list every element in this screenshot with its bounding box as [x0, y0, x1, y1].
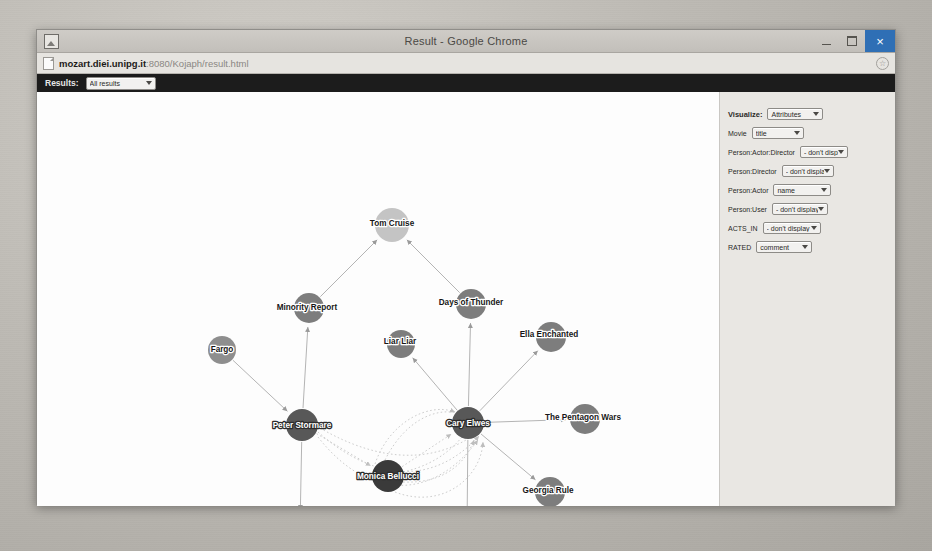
document-icon	[43, 57, 54, 70]
panel-label-person-user: Person:User	[728, 206, 767, 213]
node-label: Ella Enchanted	[520, 330, 579, 339]
panel-row-rated: RATEDcomment	[728, 241, 895, 253]
chevron-down-icon	[824, 169, 830, 173]
star-icon[interactable]: ☆	[876, 57, 889, 70]
attributes-panel: Visualize:AttributesMovietitlePerson:Act…	[720, 92, 895, 506]
address-bar[interactable]: mozart.diei.unipg.it:8080/Kojaph/result.…	[37, 53, 895, 74]
node-label: Peter Stormare	[273, 421, 332, 430]
graph-node-fargo[interactable]: Fargo	[208, 336, 236, 364]
panel-label-person-actor-director: Person:Actor:Director	[728, 149, 795, 156]
url-text[interactable]: mozart.diei.unipg.it:8080/Kojaph/result.…	[59, 58, 249, 69]
graph-node-monica-bellucci[interactable]: Monica Bellucci	[357, 460, 419, 492]
graph-node-georgia-rule[interactable]: Georgia Rule	[523, 477, 574, 506]
graph-svg[interactable]: Tom CruiseMinority ReportDays of Thunder…	[37, 92, 719, 506]
app-toolbar: Results: All results	[37, 74, 895, 92]
chevron-down-icon	[813, 112, 819, 116]
panel-select-value-person-actor: name	[777, 187, 801, 194]
panel-row-acts-in: ACTS_IN- don't display -	[728, 222, 895, 234]
graph-node-ella-enchanted[interactable]: Ella Enchanted	[520, 322, 579, 352]
chevron-down-icon	[146, 81, 152, 85]
node-label: Tom Cruise	[370, 219, 415, 228]
chevron-down-icon	[838, 150, 844, 154]
page-content: Tom CruiseMinority ReportDays of Thunder…	[37, 92, 895, 506]
node-label: Minority Report	[277, 303, 338, 312]
chevron-down-icon	[821, 188, 827, 192]
graph-node-tom-cruise[interactable]: Tom Cruise	[370, 208, 415, 242]
panel-select-acts-in[interactable]: - don't display -	[763, 222, 821, 234]
results-select[interactable]: All results	[86, 77, 156, 90]
chevron-down-icon	[794, 131, 800, 135]
panel-select-value-visualize: Attributes	[771, 111, 807, 118]
browser-window: Result - Google Chrome × mozart.diei.uni…	[36, 29, 896, 505]
panel-row-person-director: Person:Director- don't display -	[728, 165, 895, 177]
graph-edge	[320, 240, 377, 297]
panel-label-visualize: Visualize:	[728, 110, 762, 119]
chevron-down-icon	[818, 207, 824, 211]
node-label: Georgia Rule	[523, 486, 574, 495]
graph-node-liar-liar[interactable]: Liar Liar	[384, 330, 417, 358]
panel-select-person-actor-director[interactable]: - don't display -	[800, 146, 848, 158]
panel-select-person-director[interactable]: - don't display -	[782, 165, 834, 177]
graph-node-pentagon-wars[interactable]: The Pentagon Wars	[545, 404, 622, 434]
panel-select-visualize[interactable]: Attributes	[767, 108, 823, 120]
graph-nodes[interactable]: Tom CruiseMinority ReportDays of Thunder…	[208, 208, 622, 506]
panel-select-value-person-actor-director: - don't display -	[804, 149, 838, 156]
panel-row-visualize: Visualize:Attributes	[728, 108, 895, 120]
window-title: Result - Google Chrome	[37, 35, 895, 47]
panel-select-person-actor[interactable]: name	[773, 184, 831, 196]
node-label: Days of Thunder	[439, 298, 504, 307]
graph-edge	[481, 434, 535, 480]
graph-edge	[468, 323, 470, 406]
panel-select-movie[interactable]: title	[752, 127, 804, 139]
panel-select-value-acts-in: - don't display -	[767, 225, 811, 232]
panel-select-value-person-director: - don't display -	[786, 168, 824, 175]
results-select-value: All results	[90, 80, 126, 87]
graph-edge	[303, 327, 308, 408]
graph-edge	[480, 351, 538, 411]
panel-row-person-actor-director: Person:Actor:Director- don't display -	[728, 146, 895, 158]
panel-select-person-user[interactable]: - don't display -	[772, 203, 828, 215]
graph-canvas[interactable]: Tom CruiseMinority ReportDays of Thunder…	[37, 92, 719, 506]
window-titlebar: Result - Google Chrome ×	[37, 30, 895, 53]
panel-row-person-actor: Person:Actorname	[728, 184, 895, 196]
panel-label-person-director: Person:Director	[728, 168, 777, 175]
graph-edge	[467, 440, 468, 506]
panel-select-value-person-user: - don't display -	[776, 206, 818, 213]
graph-edge	[402, 434, 451, 467]
graph-node-days-of-thunder[interactable]: Days of Thunder	[439, 289, 504, 319]
rated-curve-6	[395, 442, 483, 497]
node-label: Cary Elwes	[446, 419, 490, 428]
node-label: Monica Bellucci	[357, 472, 419, 481]
graph-edge	[300, 442, 301, 506]
node-label: Liar Liar	[384, 337, 417, 346]
panel-select-value-movie: title	[756, 130, 773, 137]
panel-row-movie: Movietitle	[728, 127, 895, 139]
panel-label-rated: RATED	[728, 244, 751, 251]
graph-edge	[413, 358, 457, 410]
url-path: :8080/Kojaph/result.html	[146, 58, 248, 69]
url-host: mozart.diei.unipg.it	[59, 58, 146, 69]
chevron-down-icon	[811, 226, 817, 230]
panel-select-rated[interactable]: comment	[756, 241, 812, 253]
node-label: The Pentagon Wars	[545, 413, 622, 422]
graph-edge	[233, 360, 287, 411]
panel-select-value-rated: comment	[760, 244, 795, 251]
graph-edge	[407, 240, 460, 293]
panel-label-person-actor: Person:Actor	[728, 187, 768, 194]
node-label: Fargo	[211, 345, 234, 354]
chevron-down-icon	[802, 245, 808, 249]
graph-edge	[317, 434, 371, 466]
graph-node-peter-stormare[interactable]: Peter Stormare	[273, 409, 332, 441]
panel-label-movie: Movie	[728, 130, 747, 137]
graph-node-minority-report[interactable]: Minority Report	[277, 293, 338, 323]
results-label: Results:	[45, 78, 79, 88]
panel-label-acts-in: ACTS_IN	[728, 225, 758, 232]
panel-row-person-user: Person:User- don't display -	[728, 203, 895, 215]
